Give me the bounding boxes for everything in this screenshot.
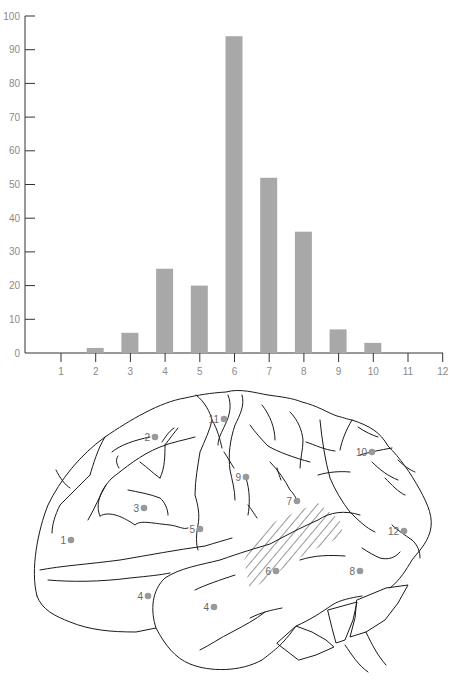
- marker-dot: [294, 498, 301, 505]
- sulci: [52, 395, 420, 650]
- marker-label: 9: [235, 472, 241, 483]
- marker-label: 6: [265, 566, 271, 577]
- marker-1: 1: [60, 535, 74, 546]
- marker-10: 10: [356, 447, 375, 458]
- marker-dot: [152, 434, 159, 441]
- bar-9: [330, 329, 347, 353]
- x-tick-label: 11: [403, 366, 414, 377]
- marker-dot: [211, 604, 218, 611]
- y-tick-label: 90: [9, 44, 21, 55]
- marker-dot: [197, 526, 204, 533]
- marker-label: 4: [203, 602, 209, 613]
- marker-2: 2: [144, 432, 158, 443]
- x-tick-label: 1: [58, 366, 64, 377]
- marker-11: 11: [209, 414, 228, 425]
- marker-dot: [145, 593, 152, 600]
- bar-7: [260, 178, 277, 353]
- y-tick-label: 60: [9, 145, 21, 156]
- hatched-region-cerebellum-mid: [328, 602, 357, 643]
- marker-dot: [243, 474, 250, 481]
- marker-4: 4: [137, 591, 151, 602]
- x-tick-label: 12: [437, 366, 449, 377]
- y-tick-label: 80: [9, 78, 21, 89]
- bar-6: [226, 36, 243, 353]
- sylvian-fissure: [40, 538, 232, 570]
- bar-2: [87, 348, 104, 353]
- marker-3: 3: [133, 503, 147, 514]
- x-tick-label: 2: [93, 366, 99, 377]
- x-tick-label: 9: [336, 366, 342, 377]
- marker-dot: [221, 416, 228, 423]
- bar-10: [364, 343, 381, 353]
- y-tick-label: 10: [9, 314, 21, 325]
- x-axis: 123456789101112: [25, 353, 449, 377]
- y-tick-label: 40: [9, 213, 21, 224]
- x-tick-label: 6: [232, 366, 238, 377]
- x-tick-label: 7: [266, 366, 272, 377]
- marker-7: 7: [286, 496, 300, 507]
- y-tick-label: 30: [9, 246, 21, 257]
- marker-8: 8: [349, 566, 363, 577]
- x-tick-label: 3: [128, 366, 134, 377]
- hatched-region-temporal: [244, 503, 343, 590]
- marker-label: 11: [209, 414, 220, 425]
- frontal-sulcus-lower: [48, 573, 170, 581]
- hatched-region-cerebellum-left: [277, 626, 334, 660]
- x-tick-label: 5: [197, 366, 203, 377]
- marker-dot: [141, 505, 148, 512]
- bar-4: [156, 269, 173, 353]
- marker-label: 8: [349, 566, 355, 577]
- bar-5: [191, 286, 208, 353]
- hatched-region-cerebellum-right: [350, 585, 408, 637]
- marker-label: 12: [388, 526, 400, 537]
- marker-label: 7: [286, 496, 292, 507]
- marker-label: 2: [144, 432, 150, 443]
- x-tick-label: 4: [162, 366, 168, 377]
- marker-dot: [273, 568, 280, 575]
- y-tick-label: 0: [14, 348, 20, 359]
- y-tick-label: 100: [3, 11, 20, 22]
- marker-label: 4: [137, 591, 143, 602]
- brain-diagram: 1234456789101112: [0, 380, 453, 684]
- x-tick-label: 8: [301, 366, 307, 377]
- marker-dot: [401, 528, 408, 535]
- brain-outline: [34, 390, 431, 596]
- x-tick-label: 10: [368, 366, 380, 377]
- y-tick-label: 70: [9, 112, 21, 123]
- marker-dot: [369, 449, 376, 456]
- marker-label: 3: [133, 503, 139, 514]
- marker-dot: [68, 537, 75, 544]
- marker-dot: [357, 568, 364, 575]
- marker-4: 4: [203, 602, 217, 613]
- bars: [87, 36, 382, 353]
- marker-label: 10: [356, 447, 368, 458]
- bar-chart: 0102030405060708090100 123456789101112: [0, 0, 453, 380]
- bar-8: [295, 232, 312, 353]
- brainstem: [345, 632, 386, 672]
- markers: 1234456789101112: [60, 414, 407, 613]
- y-tick-label: 20: [9, 280, 21, 291]
- y-tick-label: 50: [9, 179, 21, 190]
- marker-label: 1: [60, 535, 66, 546]
- bar-3: [121, 333, 138, 353]
- y-axis: 0102030405060708090100: [3, 11, 35, 359]
- marker-label: 5: [189, 524, 195, 535]
